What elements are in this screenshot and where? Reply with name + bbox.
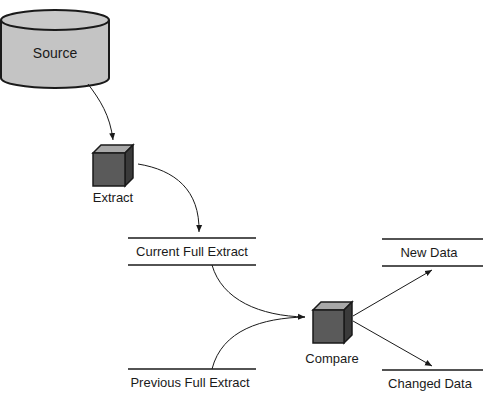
node-label-extract: Extract	[93, 190, 133, 205]
node-label-previous-full-extract: Previous Full Extract	[130, 375, 249, 390]
edge-previous-compare	[212, 317, 305, 369]
edge-extract-current	[138, 164, 199, 232]
cube-process-icon	[93, 145, 133, 186]
node-label-current-full-extract: Current Full Extract	[136, 244, 248, 259]
edge-current-compare	[212, 265, 305, 317]
cube-process-icon	[313, 302, 352, 343]
node-label-changed-data: Changed Data	[388, 376, 472, 391]
edge-compare-new	[353, 270, 432, 316]
node-label-new-data: New Data	[400, 245, 457, 260]
edge-source-extract	[88, 84, 113, 140]
node-label-source: Source	[33, 45, 77, 61]
edge-compare-changed	[353, 321, 432, 366]
node-label-compare: Compare	[305, 351, 358, 366]
